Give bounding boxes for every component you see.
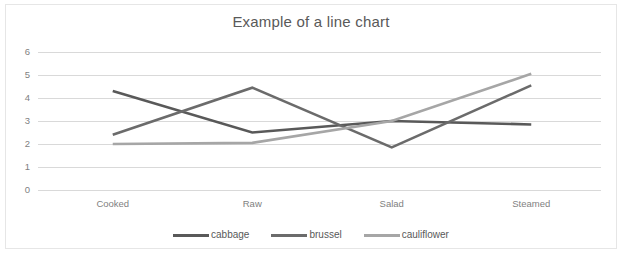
line-chart-plot: 0123456 CookedRawSaladSteamed bbox=[6, 5, 618, 250]
y-axis-tick-label: 5 bbox=[25, 69, 30, 80]
legend-item-cauliflower[interactable]: cauliflower bbox=[364, 230, 449, 240]
legend-swatch-brussel bbox=[271, 234, 307, 237]
data-series-lines bbox=[113, 74, 532, 148]
y-axis-tick-label: 2 bbox=[25, 138, 30, 149]
legend-item-cabbage[interactable]: cabbage bbox=[173, 230, 249, 240]
x-axis-tick-label: Cooked bbox=[96, 198, 129, 209]
x-axis-tick-label: Salad bbox=[380, 198, 404, 209]
y-axis-tick-label: 6 bbox=[25, 46, 30, 57]
x-axis-tick-label: Raw bbox=[243, 198, 262, 209]
y-axis-tick-labels: 0123456 bbox=[25, 46, 30, 195]
x-axis-tick-label: Steamed bbox=[512, 198, 550, 209]
chart-legend: cabbagebrusselcauliflower bbox=[6, 230, 616, 240]
legend-swatch-cabbage bbox=[173, 234, 209, 237]
y-axis-tick-label: 4 bbox=[25, 92, 30, 103]
gridlines bbox=[38, 52, 601, 190]
y-axis-tick-label: 3 bbox=[25, 115, 30, 126]
series-line-cabbage bbox=[113, 91, 532, 132]
x-axis-tick-labels: CookedRawSaladSteamed bbox=[96, 198, 550, 209]
y-axis-tick-label: 1 bbox=[25, 161, 30, 172]
legend-label-brussel: brussel bbox=[309, 230, 341, 240]
legend-label-cauliflower: cauliflower bbox=[402, 230, 449, 240]
legend-label-cabbage: cabbage bbox=[211, 230, 249, 240]
legend-item-brussel[interactable]: brussel bbox=[271, 230, 341, 240]
y-axis-tick-label: 0 bbox=[25, 184, 30, 195]
chart-container: Example of a line chart 0123456 CookedRa… bbox=[5, 4, 617, 249]
legend-swatch-cauliflower bbox=[364, 234, 400, 237]
